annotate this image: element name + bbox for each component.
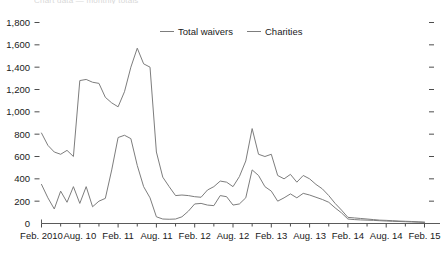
x-axis-tick-label: Feb. 11	[102, 230, 134, 241]
x-axis-tick-label: Aug. 13	[293, 230, 326, 241]
x-axis-tick-label: Aug. 14	[370, 230, 403, 241]
x-axis-tick-label: Aug. 10	[63, 230, 96, 241]
x-axis-tick-label: Feb. 13	[255, 230, 287, 241]
x-axis-tick-label: Aug. 12	[217, 230, 250, 241]
chart-legend: Total waiversCharities	[160, 26, 303, 37]
series-line-total-waivers	[42, 48, 425, 222]
legend-label-1[interactable]: Charities	[265, 26, 303, 37]
y-axis-tick-label: 1,800	[6, 17, 30, 28]
line-chart: 02004006008001,0001,2001,4001,6001,800Fe…	[0, 0, 446, 256]
y-axis-tick-label: 1,200	[6, 84, 30, 95]
y-axis-tick-label: 600	[14, 151, 30, 162]
x-axis-tick-label: Feb. 15	[408, 230, 440, 241]
chart-container: Chart data — monthly totals 020040060080…	[0, 0, 446, 256]
x-axis-tick-label: Feb. 2010	[20, 230, 63, 241]
series-line-charities	[42, 135, 425, 222]
y-axis-tick-label: 400	[14, 173, 30, 184]
y-axis-tick-label: 1,400	[6, 62, 30, 73]
axis-group: 02004006008001,0001,2001,4001,6001,800Fe…	[6, 17, 440, 241]
x-axis-tick-label: Aug. 11	[140, 230, 172, 241]
x-axis-tick-label: Feb. 14	[332, 230, 364, 241]
y-axis-tick-label: 1,600	[6, 39, 30, 50]
y-axis-tick-label: 800	[14, 129, 30, 140]
x-axis-tick-label: Feb. 12	[179, 230, 211, 241]
y-axis-tick-label: 1,000	[6, 106, 30, 117]
legend-label-0[interactable]: Total waivers	[178, 26, 233, 37]
y-axis-tick-label: 200	[14, 196, 30, 207]
series-group	[42, 48, 425, 222]
y-axis-tick-label: 0	[25, 218, 30, 229]
